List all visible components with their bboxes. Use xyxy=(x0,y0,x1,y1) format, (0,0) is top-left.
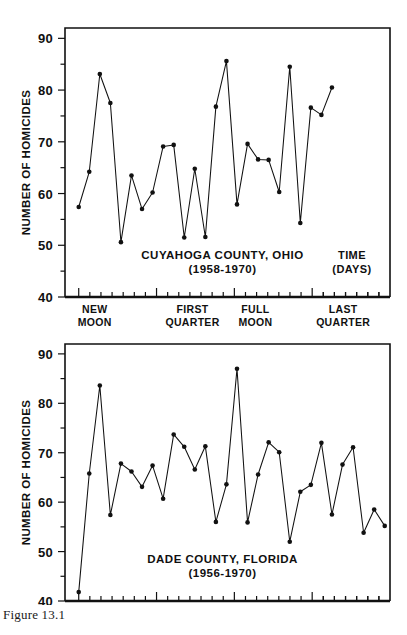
data-point xyxy=(87,170,92,175)
data-point xyxy=(203,235,208,240)
data-point xyxy=(330,512,335,517)
data-point xyxy=(108,101,113,106)
data-point xyxy=(330,85,335,90)
data-point xyxy=(319,113,324,118)
data-point xyxy=(361,531,366,536)
data-point xyxy=(98,383,103,388)
data-series-line-cuyahoga xyxy=(79,61,332,242)
plot-subtitle-dade: (1956-1970) xyxy=(188,567,256,579)
data-point xyxy=(309,483,314,488)
y-tick-label: 60 xyxy=(38,187,53,202)
data-point xyxy=(87,471,92,476)
data-point xyxy=(140,207,145,212)
data-point xyxy=(245,142,250,147)
data-point xyxy=(372,507,377,512)
phase-label-line1: FIRST xyxy=(177,303,209,315)
data-point xyxy=(140,485,145,490)
data-point xyxy=(224,59,229,64)
data-point xyxy=(319,441,324,446)
data-point xyxy=(266,158,271,163)
data-point xyxy=(266,440,271,445)
phase-label-line1: NEW xyxy=(82,303,107,315)
data-point xyxy=(245,520,250,525)
data-point xyxy=(108,513,113,518)
data-point xyxy=(340,462,345,467)
data-point xyxy=(309,105,314,110)
data-point xyxy=(277,450,282,455)
phase-label-line2: QUARTER xyxy=(316,316,370,328)
data-point xyxy=(298,489,303,494)
figure-13-1: 405060708090NUMBER OF HOMICIDESCUYAHOGA … xyxy=(0,0,407,635)
plot-title-dade: DADE COUNTY, FLORIDA xyxy=(147,553,298,565)
data-point xyxy=(161,496,166,501)
y-tick-label: 70 xyxy=(38,446,53,461)
data-point xyxy=(287,65,292,70)
data-point xyxy=(287,539,292,544)
data-point xyxy=(76,205,81,210)
data-point xyxy=(171,432,176,437)
y-tick-label: 50 xyxy=(38,545,53,560)
plot-panel-dade: 405060708090NUMBER OF HOMICIDESDADE COUN… xyxy=(20,344,390,605)
data-point xyxy=(119,461,124,466)
data-point xyxy=(150,190,155,195)
y-tick-label: 70 xyxy=(38,135,53,150)
y-tick-label: 80 xyxy=(38,396,53,411)
phase-label-line2: QUARTER xyxy=(166,316,220,328)
data-point xyxy=(382,524,387,529)
data-point xyxy=(182,235,187,240)
data-point xyxy=(214,520,219,525)
y-tick-label: 60 xyxy=(38,495,53,510)
phase-label-line2: MOON xyxy=(78,316,112,328)
y-axis-title: NUMBER OF HOMICIDES xyxy=(20,400,32,546)
figure-caption: Figure 13.1 xyxy=(3,607,65,623)
data-point xyxy=(235,202,240,207)
data-point xyxy=(277,190,282,195)
data-point xyxy=(171,143,176,148)
data-point xyxy=(192,166,197,171)
y-tick-label: 80 xyxy=(38,83,53,98)
y-tick-label: 40 xyxy=(38,594,53,605)
data-point xyxy=(119,240,124,245)
data-point xyxy=(214,104,219,109)
y-tick-label: 90 xyxy=(38,31,53,46)
data-point xyxy=(98,72,103,77)
plot-subtitle-cuyahoga: (1958-1970) xyxy=(188,263,256,275)
data-point xyxy=(203,444,208,449)
y-axis-title: NUMBER OF HOMICIDES xyxy=(20,90,32,236)
data-point xyxy=(150,463,155,468)
y-tick-label: 90 xyxy=(38,347,53,362)
plot-title-cuyahoga: CUYAHOGA COUNTY, OHIO xyxy=(141,249,303,261)
data-point xyxy=(182,445,187,450)
data-point xyxy=(256,472,261,477)
data-point xyxy=(235,366,240,371)
x-axis-title-line2: (DAYS) xyxy=(332,263,371,275)
phase-label-line2: MOON xyxy=(238,316,272,328)
x-axis-title-line1: TIME xyxy=(338,249,366,261)
data-point xyxy=(161,144,166,149)
homicides-lunar-phase-chart: 405060708090NUMBER OF HOMICIDESCUYAHOGA … xyxy=(0,0,407,605)
phase-label-line1: FULL xyxy=(241,303,269,315)
data-point xyxy=(256,157,261,162)
data-point xyxy=(129,469,134,474)
y-tick-label: 40 xyxy=(38,290,53,305)
phase-label-line1: LAST xyxy=(329,303,358,315)
data-point xyxy=(192,467,197,472)
data-point xyxy=(129,173,134,178)
data-point xyxy=(224,482,229,487)
data-point xyxy=(298,221,303,226)
data-point xyxy=(76,590,81,595)
data-point xyxy=(351,445,356,450)
y-tick-label: 50 xyxy=(38,238,53,253)
